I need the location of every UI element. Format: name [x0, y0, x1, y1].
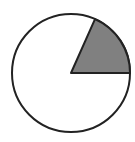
- pie-chart: [0, 0, 135, 142]
